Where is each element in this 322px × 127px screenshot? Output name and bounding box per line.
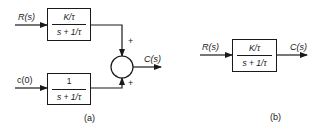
transfer-block-bottom: 1 s + 1/τ (47, 73, 91, 105)
block-numerator: K/τ (247, 43, 262, 54)
fraction-bar (52, 89, 86, 90)
summing-junction (111, 56, 133, 78)
block-denominator: s + 1/τ (55, 27, 83, 38)
fraction-bar (52, 24, 86, 25)
plus-sign-top: + (128, 37, 133, 46)
input-r-label-a: R(s) (18, 13, 35, 22)
transfer-block-top: K/τ s + 1/τ (47, 8, 91, 41)
transfer-block-b: K/τ s + 1/τ (232, 39, 277, 72)
plus-sign-bottom: + (128, 79, 133, 88)
output-c-label-b: C(s) (290, 43, 307, 52)
input-r-label-b: R(s) (202, 43, 219, 52)
input-c0-label: c(0) (17, 76, 33, 85)
block-numerator: 1 (65, 76, 74, 87)
block-denominator: s + 1/τ (55, 92, 83, 103)
output-c-label-a: C(s) (144, 55, 161, 64)
block-denominator: s + 1/τ (240, 58, 268, 69)
top-branch-line (91, 25, 122, 56)
block-numerator: K/τ (61, 12, 76, 23)
caption-a: (a) (84, 114, 95, 123)
caption-b: (b) (270, 113, 281, 122)
bottom-branch-line (91, 78, 122, 88)
fraction-bar (237, 55, 271, 56)
